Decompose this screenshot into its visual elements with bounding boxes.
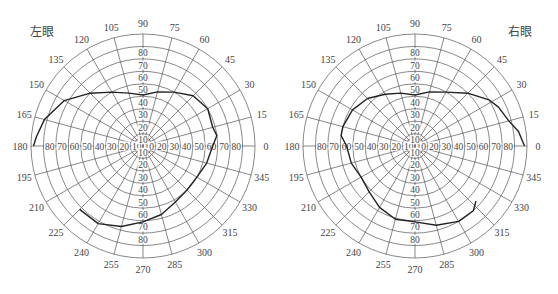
radial-label: 10 xyxy=(138,148,148,158)
radial-label: 70 xyxy=(491,142,501,152)
radial-label: 40 xyxy=(410,185,420,195)
angle-label-210: 210 xyxy=(301,202,316,213)
radial-label: 10 xyxy=(138,135,148,145)
radial-label: 20 xyxy=(138,123,148,133)
radial-label: 40 xyxy=(138,98,148,108)
angle-label-45: 45 xyxy=(225,54,235,65)
radial-label: 20 xyxy=(429,142,439,152)
spoke-45 xyxy=(143,67,222,146)
radial-label: 40 xyxy=(367,142,377,152)
angle-label-60: 60 xyxy=(200,34,210,45)
spoke-225 xyxy=(64,146,143,225)
angle-label-75: 75 xyxy=(442,22,452,33)
angle-label-345: 345 xyxy=(254,172,269,183)
right-eye-chart: 0153045607590105120135150165180195210225… xyxy=(285,18,542,275)
angle-label-105: 105 xyxy=(104,22,119,33)
spoke-45 xyxy=(415,67,494,146)
angle-label-255: 255 xyxy=(376,259,391,270)
spoke-315 xyxy=(143,146,222,225)
visual-field-charts: 0153045607590105120135150165180195210225… xyxy=(0,0,558,294)
radial-label: 70 xyxy=(329,142,339,152)
angle-label-240: 240 xyxy=(346,247,361,258)
angle-label-150: 150 xyxy=(301,79,316,90)
radial-label: 80 xyxy=(45,142,55,152)
radial-label: 50 xyxy=(466,142,476,152)
angle-label-345: 345 xyxy=(526,172,541,183)
left-eye-chart: 0153045607590105120135150165180195210225… xyxy=(13,18,270,275)
angle-label-45: 45 xyxy=(497,54,507,65)
radial-label: 30 xyxy=(379,142,389,152)
angle-label-180: 180 xyxy=(285,141,300,152)
radial-label: 60 xyxy=(138,210,148,220)
angle-label-15: 15 xyxy=(529,109,539,120)
angle-label-90: 90 xyxy=(410,18,420,29)
radial-label: 40 xyxy=(454,142,464,152)
angle-label-270: 270 xyxy=(136,264,151,275)
radial-label: 20 xyxy=(138,160,148,170)
angle-label-300: 300 xyxy=(197,247,212,258)
angle-label-270: 270 xyxy=(408,264,423,275)
angle-label-195: 195 xyxy=(17,172,32,183)
radial-label: 80 xyxy=(410,235,420,245)
radial-label: 30 xyxy=(107,142,117,152)
radial-label: 40 xyxy=(95,142,105,152)
angle-label-330: 330 xyxy=(242,202,257,213)
spoke-315 xyxy=(415,146,494,225)
angle-label-135: 135 xyxy=(321,54,336,65)
angle-label-135: 135 xyxy=(49,54,64,65)
radial-label: 30 xyxy=(138,110,148,120)
angle-label-210: 210 xyxy=(29,202,44,213)
angle-label-150: 150 xyxy=(29,79,44,90)
angle-label-285: 285 xyxy=(167,259,182,270)
radial-label: 40 xyxy=(138,185,148,195)
radial-label: 70 xyxy=(410,61,420,71)
radial-label: 80 xyxy=(138,235,148,245)
radial-label: 10 xyxy=(410,148,420,158)
radial-label: 70 xyxy=(410,222,420,232)
radial-label: 70 xyxy=(219,142,229,152)
radial-label: 60 xyxy=(70,142,80,152)
radial-label: 60 xyxy=(410,210,420,220)
radial-label: 80 xyxy=(317,142,327,152)
radial-label: 70 xyxy=(138,222,148,232)
radial-label: 30 xyxy=(138,173,148,183)
radial-label: 40 xyxy=(182,142,192,152)
angle-label-165: 165 xyxy=(17,109,32,120)
radial-label: 70 xyxy=(57,142,67,152)
angle-label-285: 285 xyxy=(439,259,454,270)
radial-label: 80 xyxy=(504,142,514,152)
angle-label-315: 315 xyxy=(222,227,237,238)
spoke-135 xyxy=(336,67,415,146)
radial-label: 80 xyxy=(410,48,420,58)
angle-label-300: 300 xyxy=(469,247,484,258)
radial-label: 30 xyxy=(441,142,451,152)
radial-label: 40 xyxy=(410,98,420,108)
radial-label: 50 xyxy=(410,198,420,208)
radial-label: 60 xyxy=(410,73,420,83)
radial-label: 70 xyxy=(138,61,148,71)
spoke-135 xyxy=(64,67,143,146)
angle-label-165: 165 xyxy=(289,109,304,120)
radial-label: 20 xyxy=(392,142,402,152)
angle-label-0: 0 xyxy=(264,141,269,152)
angle-label-180: 180 xyxy=(13,141,28,152)
radial-label: 60 xyxy=(138,73,148,83)
radial-label: 20 xyxy=(410,123,420,133)
radial-label: 80 xyxy=(138,48,148,58)
angle-label-240: 240 xyxy=(74,247,89,258)
radial-label: 50 xyxy=(82,142,92,152)
radial-label: 50 xyxy=(194,142,204,152)
radial-label: 80 xyxy=(232,142,242,152)
radial-label: 20 xyxy=(157,142,167,152)
radial-label: 60 xyxy=(479,142,489,152)
angle-label-75: 75 xyxy=(170,22,180,33)
angle-label-30: 30 xyxy=(245,79,255,90)
radial-label: 30 xyxy=(410,173,420,183)
radial-label: 10 xyxy=(410,135,420,145)
radial-label: 30 xyxy=(410,110,420,120)
angle-label-105: 105 xyxy=(376,22,391,33)
angle-label-330: 330 xyxy=(514,202,529,213)
spoke-225 xyxy=(336,146,415,225)
angle-label-0: 0 xyxy=(536,141,541,152)
radial-label: 30 xyxy=(169,142,179,152)
